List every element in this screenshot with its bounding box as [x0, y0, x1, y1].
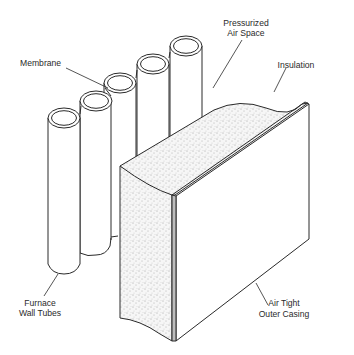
tube-2 — [80, 88, 112, 256]
tubes-label-line2: Wall Tubes — [19, 308, 61, 318]
membrane-leader — [66, 68, 108, 88]
membrane-edge — [111, 236, 118, 237]
casing-edge — [172, 195, 176, 341]
pressurized-leader — [213, 40, 242, 88]
casing-label-line2: Outer Casing — [259, 309, 310, 319]
casing-label-line1: Air Tight — [268, 298, 300, 308]
insulation-label: Insulation — [278, 60, 315, 70]
tubes-label-line1: Furnace — [24, 298, 56, 308]
pressurized-label-line2: Air Space — [227, 28, 264, 38]
casing-leader — [256, 283, 268, 305]
tubes-leader — [44, 274, 58, 296]
tube-1 — [48, 106, 81, 274]
diagram-canvas: Membrane Pressurized Air Space Insulatio… — [0, 0, 354, 355]
pressurized-label-line1: Pressurized — [223, 18, 269, 28]
furnace-wall-diagram: Membrane Pressurized Air Space Insulatio… — [0, 0, 354, 355]
membrane-label: Membrane — [20, 58, 61, 68]
insulation-leader — [274, 68, 286, 92]
